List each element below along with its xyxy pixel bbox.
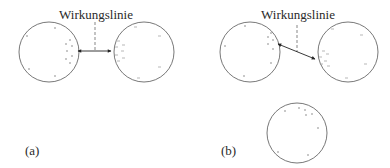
- caption-b: (b): [221, 143, 236, 158]
- force-arrow: [278, 44, 315, 59]
- sphere-left-points: [224, 25, 273, 76]
- sphere-bottom: [267, 103, 327, 163]
- collision-diagram: Wirkungslinie (a) Wirkungslin: [0, 0, 390, 168]
- label-wirkungslinie-b: Wirkungslinie: [261, 7, 335, 22]
- sphere-left: [19, 22, 79, 82]
- sphere-right-points: [319, 29, 367, 78]
- panel-b: Wirkungslinie (b): [220, 7, 378, 163]
- panel-a: Wirkungslinie (a): [19, 7, 174, 158]
- sphere-bottom-points: [277, 107, 318, 155]
- caption-a: (a): [25, 143, 39, 158]
- sphere-right: [114, 22, 174, 82]
- sphere-left-points: [26, 27, 72, 76]
- sphere-left: [220, 22, 280, 82]
- label-wirkungslinie-a: Wirkungslinie: [59, 7, 133, 22]
- sphere-right: [318, 22, 378, 82]
- sphere-right-points: [115, 27, 161, 78]
